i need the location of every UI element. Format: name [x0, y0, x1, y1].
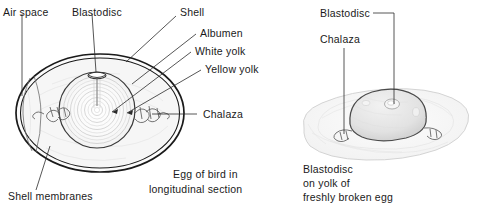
label-air-space: Air space	[3, 6, 49, 18]
egg-section-group	[16, 14, 201, 190]
caption-broken-egg-line1: Blastodisc	[303, 163, 353, 177]
label-shell: Shell	[180, 6, 204, 18]
caption-egg-section-line2: longitudinal section	[149, 183, 242, 197]
blastodisc-spot-center	[388, 101, 395, 105]
caption-egg-section-line1: Egg of bird in	[173, 168, 238, 182]
caption-broken-egg-line2: on yolk of	[303, 177, 350, 191]
label-albumen: Albumen	[200, 27, 243, 39]
figure-canvas: Air space Blastodisc Shell Albumen White…	[0, 0, 481, 211]
dome-highlight-left	[362, 100, 370, 105]
label-yellow-yolk: Yellow yolk	[205, 63, 259, 75]
label-blastodisc-right: Blastodisc	[320, 7, 370, 19]
label-blastodisc: Blastodisc	[72, 6, 122, 18]
dome-highlight-right	[413, 108, 420, 117]
label-chalaza: Chalaza	[203, 108, 243, 120]
label-white-yolk: White yolk	[195, 45, 245, 57]
caption-broken-egg-line3: freshly broken egg	[303, 191, 393, 205]
label-shell-membranes: Shell membranes	[8, 190, 93, 202]
label-chalaza-right: Chalaza	[320, 33, 360, 45]
